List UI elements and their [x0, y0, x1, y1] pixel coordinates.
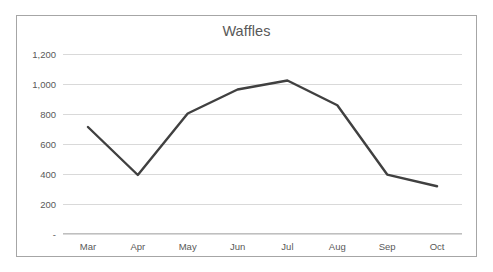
- x-axis-tick-labels: MarAprMayJunJulAugSepOct: [80, 241, 445, 252]
- y-axis-tick-label: 600: [40, 139, 56, 150]
- x-axis-tick-label: Jul: [281, 241, 293, 252]
- x-axis-tick-label: May: [179, 241, 197, 252]
- y-axis-tick-label: -: [53, 229, 56, 240]
- x-axis-tick-label: Apr: [130, 241, 145, 252]
- x-axis-tick-label: Oct: [430, 241, 445, 252]
- x-axis-tick-label: Sep: [379, 241, 396, 252]
- y-axis-tick-label: 800: [40, 109, 56, 120]
- x-axis-tick-label: Aug: [329, 241, 346, 252]
- y-axis-tick-label: 400: [40, 169, 56, 180]
- chart-container: Waffles -2004006008001,0001,200 MarAprMa…: [16, 15, 477, 257]
- gridlines-group: [63, 55, 462, 235]
- data-series-line-waffles: [88, 81, 437, 187]
- x-axis-tick-label: Jun: [230, 241, 245, 252]
- y-axis-tick-label: 200: [40, 199, 56, 210]
- y-axis-tick-labels: -2004006008001,0001,200: [32, 49, 56, 240]
- line-chart-plot: -2004006008001,0001,200 MarAprMayJunJulA…: [17, 16, 478, 258]
- y-axis-tick-label: 1,200: [32, 49, 56, 60]
- x-axis-tick-label: Mar: [80, 241, 96, 252]
- y-axis-tick-label: 1,000: [32, 79, 56, 90]
